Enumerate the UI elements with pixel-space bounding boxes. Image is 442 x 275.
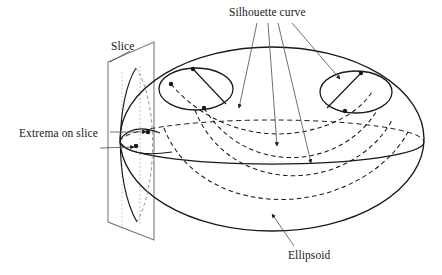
leader-silhouette-3 bbox=[278, 23, 311, 163]
small-ellipse-right bbox=[320, 71, 392, 113]
point-marker bbox=[202, 106, 206, 110]
leader-lines-silhouette bbox=[239, 23, 340, 163]
silhouette-curve-2 bbox=[204, 108, 376, 158]
leader-silhouette-4 bbox=[292, 23, 340, 79]
label-ellipsoid: Ellipsoid bbox=[288, 249, 330, 262]
silhouette-curve-1 bbox=[171, 84, 372, 134]
label-silhouette-curve: Silhouette curve bbox=[229, 6, 306, 19]
slice-equator-hook-lower bbox=[120, 142, 172, 154]
equator bbox=[120, 120, 424, 164]
leader-silhouette-2 bbox=[268, 23, 277, 146]
slice-section-back bbox=[136, 68, 153, 222]
leader-extrema-lower bbox=[100, 147, 134, 148]
leader-silhouette-1 bbox=[239, 23, 257, 108]
right-ellipse-chord bbox=[327, 73, 361, 108]
silhouette-curves bbox=[164, 84, 408, 199]
point-marker bbox=[169, 82, 173, 86]
slice-intersection bbox=[120, 68, 172, 222]
extrema-point-upper bbox=[146, 130, 151, 135]
figure-ellipsoid-silhouette: Silhouette curve Slice Extrema on slice … bbox=[0, 0, 442, 275]
point-marker bbox=[191, 67, 195, 71]
point-marker bbox=[343, 109, 347, 113]
label-extrema-on-slice: Extrema on slice bbox=[19, 127, 98, 140]
point-marker bbox=[359, 71, 363, 75]
extrema-point-lower bbox=[134, 144, 139, 149]
silhouette-curve-3 bbox=[195, 110, 392, 176]
small-ellipse-left bbox=[159, 67, 233, 110]
label-slice: Slice bbox=[111, 40, 135, 53]
